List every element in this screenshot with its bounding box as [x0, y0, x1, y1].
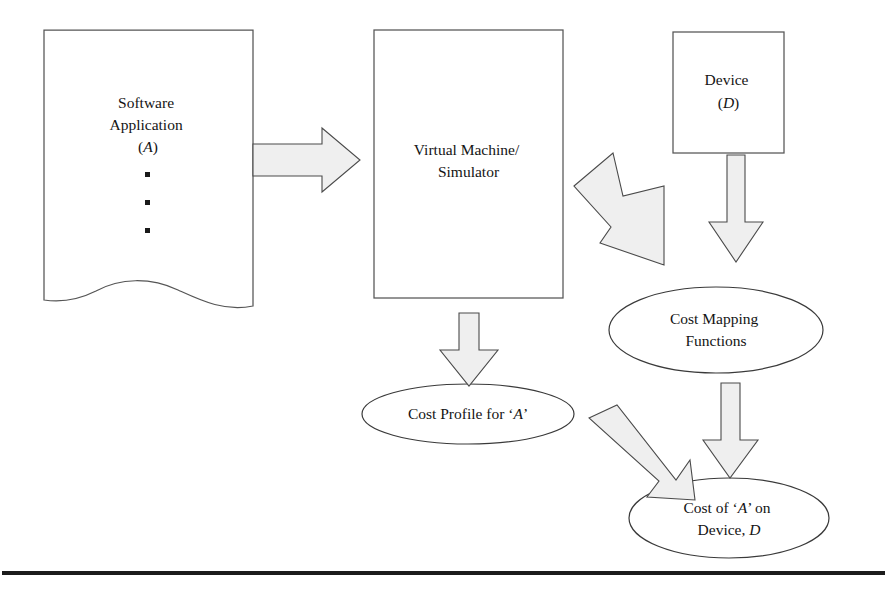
node-virtual-machine: Virtual Machine/ Simulator [374, 30, 563, 298]
node-device: Device (D) [673, 32, 784, 153]
node-cost-profile: Cost Profile for ‘A’ [362, 384, 574, 444]
arrow-device-to-cost-mapping-icon [709, 155, 763, 262]
arrow-cost-mapping-to-result-icon [703, 383, 758, 478]
device-shape [673, 32, 784, 153]
cost-profile-label: Cost Profile for ‘A’ [408, 405, 528, 422]
flow-diagram: Software Application (A) Virtual Machine… [0, 0, 889, 593]
bottom-rule [2, 571, 885, 575]
cost-mapping-functions-shape [609, 287, 823, 373]
node-software-application: Software Application (A) [44, 30, 253, 308]
arrow-vm-to-cost-profile-icon [440, 313, 498, 386]
node-cost-mapping-functions: Cost Mapping Functions [609, 287, 823, 373]
arrow-vm-to-cost-mapping-icon [574, 153, 664, 265]
arrow-cost-profile-to-result-icon [589, 405, 695, 500]
software-application-shape [44, 30, 253, 308]
arrow-app-to-vm-icon [253, 128, 360, 192]
figure-root: Software Application (A) Virtual Machine… [0, 0, 889, 593]
